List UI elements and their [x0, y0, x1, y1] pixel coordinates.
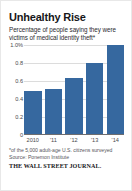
x-tick-label: '12 [65, 137, 83, 143]
y-tick-label: 0 [20, 132, 23, 138]
plot-canvas [24, 45, 124, 135]
bar-series [24, 45, 124, 134]
bar [24, 91, 42, 135]
plot-area: 00.20.40.60.81.0% 2010'11'12'13'14 [8, 45, 125, 141]
bar [86, 63, 104, 134]
chart-footer: *of the 5,000 adult-age U.S. citizens su… [8, 147, 125, 168]
chart-card: Unhealthy Rise Percentage of people sayi… [0, 0, 132, 191]
y-tick-label: 0.8 [15, 60, 23, 66]
bar [45, 89, 63, 134]
y-tick-label: 0.2 [15, 114, 23, 120]
x-axis-labels: 2010'11'12'13'14 [24, 137, 124, 143]
y-tick-label: 0.4 [15, 96, 23, 102]
x-axis-line [24, 134, 124, 135]
x-tick-label: '11 [45, 137, 63, 143]
wsj-logo: THE WALL STREET JOURNAL. [9, 163, 125, 169]
y-axis-labels: 00.20.40.60.81.0% [8, 45, 24, 135]
y-tick-label: 0.6 [15, 78, 23, 84]
x-tick-label: '13 [86, 137, 104, 143]
bar [65, 78, 83, 134]
chart-subtitle: Percentage of people saying they were vi… [9, 26, 125, 42]
bar [107, 45, 125, 134]
source-line: Source: Ponemon Institute [9, 154, 125, 160]
y-tick-label: 1.0% [10, 42, 23, 48]
chart-title: Unhealthy Rise [9, 11, 125, 23]
footnote: *of the 5,000 adult-age U.S. citizens su… [9, 147, 125, 153]
x-tick-label: 2010 [24, 137, 42, 143]
x-tick-label: '14 [107, 137, 125, 143]
